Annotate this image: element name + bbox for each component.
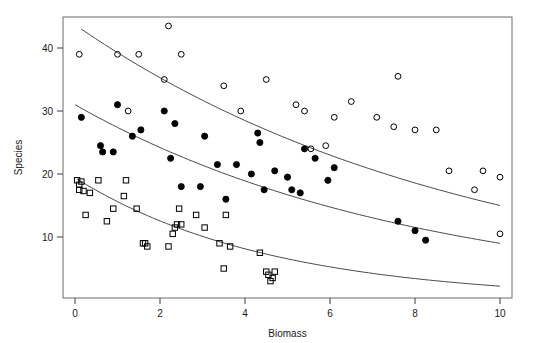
data-point-open-circle (412, 127, 418, 133)
x-axis-title: Biomass (268, 328, 306, 339)
data-point-filled-circle (168, 155, 174, 161)
data-point-filled-circle (248, 171, 254, 177)
data-point-filled-circle (255, 130, 261, 136)
y-tick-label: 40 (42, 43, 54, 54)
data-point-open-circle (166, 23, 172, 29)
data-point-open-circle (302, 108, 308, 114)
data-point-filled-circle (297, 190, 303, 196)
data-point-open-square (96, 178, 101, 183)
data-point-open-square (87, 190, 92, 195)
data-point-open-circle (178, 51, 184, 57)
upper-curve (81, 29, 500, 205)
y-tick-label: 20 (42, 169, 54, 180)
data-point-filled-circle (312, 155, 318, 161)
data-point-filled-circle (284, 174, 290, 180)
x-tick-label: 2 (157, 308, 163, 319)
data-point-filled-circle (301, 146, 307, 152)
data-point-open-circle (238, 108, 244, 114)
plot-canvas: 024681010203040BiomassSpecies (0, 0, 536, 343)
data-point-open-square (193, 212, 198, 217)
data-point-filled-circle (129, 133, 135, 139)
data-point-filled-circle (110, 149, 116, 155)
data-point-open-circle (323, 143, 329, 149)
data-point-open-square (111, 206, 116, 211)
data-point-open-circle (221, 83, 227, 89)
data-point-filled-circle (178, 184, 184, 190)
data-point-open-circle (76, 51, 82, 57)
data-point-open-circle (497, 231, 503, 237)
data-point-open-circle (395, 73, 401, 79)
plot-frame (63, 17, 512, 298)
data-point-filled-circle (423, 237, 429, 243)
data-point-filled-circle (395, 218, 401, 224)
data-point-open-square (166, 244, 171, 249)
data-point-filled-circle (331, 165, 337, 171)
data-point-filled-circle (114, 102, 120, 108)
data-point-filled-circle (272, 168, 278, 174)
data-point-open-circle (293, 102, 299, 108)
data-point-open-circle (348, 99, 354, 105)
data-point-filled-circle (100, 149, 106, 155)
data-point-open-square (83, 212, 88, 217)
data-point-open-square (221, 266, 226, 271)
data-point-filled-circle (257, 139, 263, 145)
data-point-filled-circle (138, 127, 144, 133)
data-point-open-circle (136, 51, 142, 57)
data-point-open-square (272, 269, 277, 274)
data-point-filled-circle (233, 161, 239, 167)
data-point-open-circle (472, 187, 478, 193)
data-point-open-circle (331, 114, 337, 120)
data-point-open-circle (391, 124, 397, 130)
data-point-open-circle (374, 114, 380, 120)
x-tick-label: 10 (494, 308, 506, 319)
data-point-filled-circle (289, 187, 295, 193)
data-point-open-square (202, 225, 207, 230)
data-point-filled-circle (97, 143, 103, 149)
data-point-filled-circle (197, 184, 203, 190)
y-tick-label: 30 (42, 106, 54, 117)
data-point-filled-circle (325, 177, 331, 183)
x-tick-label: 8 (412, 308, 418, 319)
data-point-open-square (123, 178, 128, 183)
data-point-open-square (170, 231, 175, 236)
scatter-plot-figure: 024681010203040BiomassSpecies (0, 0, 536, 343)
x-tick-label: 0 (72, 308, 78, 319)
data-point-open-circle (263, 77, 269, 83)
data-point-filled-circle (412, 228, 418, 234)
filled-circle-series-group (78, 102, 428, 244)
data-point-filled-circle (214, 161, 220, 167)
data-point-open-circle (497, 174, 503, 180)
data-point-open-square (121, 193, 126, 198)
data-point-open-circle (433, 127, 439, 133)
data-point-filled-circle (202, 133, 208, 139)
data-point-open-circle (125, 108, 131, 114)
data-point-open-square (176, 206, 181, 211)
data-point-filled-circle (261, 187, 267, 193)
data-point-filled-circle (172, 121, 178, 127)
y-axis-title: Species (13, 140, 24, 176)
open-square-series-group (74, 178, 277, 284)
data-point-open-square (223, 212, 228, 217)
data-point-open-square (104, 219, 109, 224)
data-point-open-circle (446, 168, 452, 174)
y-tick-label: 10 (42, 232, 54, 243)
data-point-filled-circle (223, 196, 229, 202)
x-tick-label: 6 (327, 308, 333, 319)
data-point-open-circle (480, 168, 486, 174)
data-point-filled-circle (161, 108, 167, 114)
data-point-filled-circle (78, 114, 84, 120)
x-tick-label: 4 (242, 308, 248, 319)
